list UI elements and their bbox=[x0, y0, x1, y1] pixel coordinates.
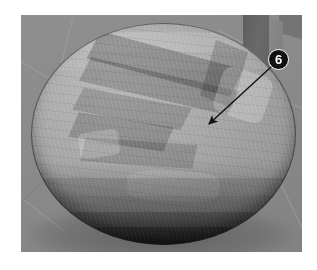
callout-badge-label: 6 bbox=[275, 53, 282, 66]
figure-page: 6 bbox=[0, 0, 317, 270]
callout-arrow bbox=[0, 0, 317, 270]
callout-leader-line bbox=[209, 67, 271, 124]
callout-badge-6[interactable]: 6 bbox=[268, 49, 289, 70]
